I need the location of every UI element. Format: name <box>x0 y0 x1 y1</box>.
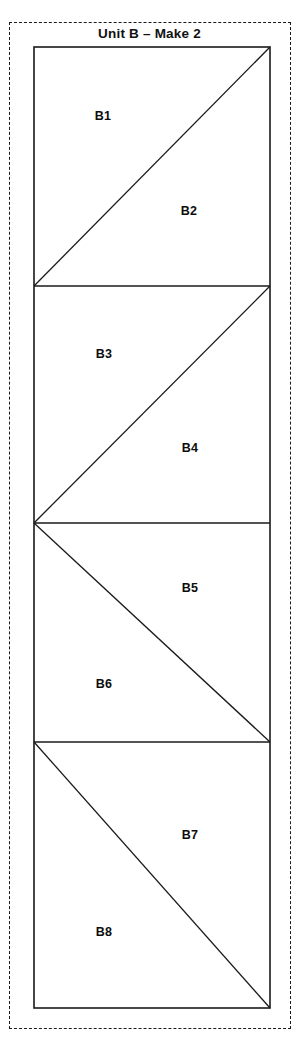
piece-label-b6: B6 <box>96 677 113 691</box>
block-drawing <box>0 0 299 1051</box>
piece-label-b2: B2 <box>181 204 198 218</box>
piece-label-b3: B3 <box>96 347 113 361</box>
piece-label-b8: B8 <box>96 925 113 939</box>
piece-label-b1: B1 <box>95 109 112 123</box>
pattern-page: Unit B – Make 2 B1 B2 B3 B4 B5 B6 B7 B8 <box>0 0 299 1051</box>
piece-label-b5: B5 <box>182 581 199 595</box>
piece-label-b7: B7 <box>182 828 199 842</box>
block-outline <box>34 47 270 1008</box>
piece-label-b4: B4 <box>182 441 199 455</box>
